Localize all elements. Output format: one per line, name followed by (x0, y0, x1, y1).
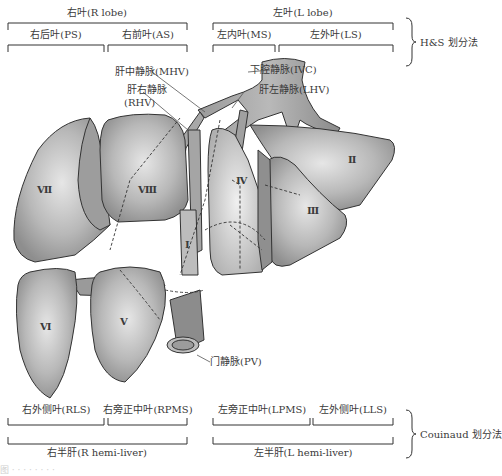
pv-label: 门静脉(PV) (210, 356, 262, 368)
segment-4: Ⅳ (236, 175, 247, 187)
right-lateral-sector-label: 右外侧叶(RLS) (22, 404, 91, 416)
rhv-label-line1: 肝右静脉 (127, 84, 167, 96)
left-lateral-label: 左外叶(LS) (310, 29, 361, 41)
hs-method-label: H&S 划分法 (420, 37, 478, 49)
left-lobe-label: 左叶(L lobe) (273, 7, 332, 19)
couinaud-method-label: Couinaud 划分法 (420, 429, 502, 441)
right-posterior-label: 右后叶(PS) (30, 29, 81, 41)
right-paramedian-sector-label: 右旁正中叶(RPMS) (103, 404, 192, 416)
left-lobes (208, 125, 395, 275)
figure-caption-fragment: 图 · · · · · · · · (0, 463, 55, 476)
segment-1: Ⅰ (185, 239, 190, 251)
mhv-label: 肝中静脉(MHV) (115, 66, 189, 78)
segment-8: Ⅷ (138, 184, 157, 196)
segment-7: Ⅶ (37, 184, 52, 196)
portal-vein (167, 290, 204, 353)
left-lateral-sector-label: 左外侧叶(LLS) (319, 404, 387, 416)
segment-5: Ⅴ (120, 316, 128, 328)
segment-3: Ⅲ (307, 205, 319, 217)
rhv-label-line2: (RHV) (124, 97, 155, 109)
ivc-label: 下腔静脉(IVC) (250, 64, 317, 76)
right-hemi-liver-label: 右半肝(R hemi-liver) (47, 447, 147, 459)
segment-2: Ⅱ (348, 154, 356, 166)
left-hemi-liver-label: 左半肝(L hemi-liver) (254, 447, 353, 459)
lower-right-lobes (16, 267, 165, 398)
left-paramedian-sector-label: 左旁正中叶(LPMS) (218, 404, 306, 416)
segment-6: Ⅵ (40, 321, 52, 333)
lhv-label: 肝左静脉(LHV) (259, 84, 329, 96)
right-lobe-label: 右叶(R lobe) (67, 7, 127, 19)
left-medial-label: 左内叶(MS) (217, 29, 272, 41)
right-anterior-label: 右前叶(AS) (122, 29, 174, 41)
